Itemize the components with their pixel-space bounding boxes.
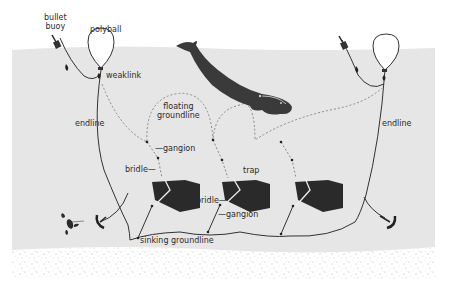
label-polyball: polyball [90,25,121,34]
label-gangion-upper-text: gangion [163,144,195,153]
label-gangion-lower: —gangion [218,210,258,219]
label-floating-groundline-line1: floating [157,102,200,111]
seafloor-sand [12,247,437,280]
fishing-gear-diagram [0,0,451,288]
label-bullet-buoy-line1: bullet [44,13,67,22]
label-bridle-upper-text: bridle [125,165,148,174]
label-bridle-upper: bridle— [125,165,156,174]
label-floating-groundline-line2: groundline [157,111,200,120]
label-bridle-lower: bridle— [196,196,227,205]
label-bullet-buoy: bullet buoy [44,13,67,31]
label-endline-right: endline [382,119,412,128]
label-endline-left: endline [75,119,105,128]
label-floating-groundline: floating groundline [157,102,200,120]
label-gangion-lower-text: gangion [226,210,258,219]
label-bullet-buoy-line2: buoy [44,22,67,31]
label-sinking-groundline: sinking groundline [140,236,214,245]
label-gangion-upper: —gangion [155,144,195,153]
label-trap: trap [243,166,259,175]
label-weaklink: weaklink [106,71,141,80]
label-bridle-lower-text: bridle [196,196,219,205]
